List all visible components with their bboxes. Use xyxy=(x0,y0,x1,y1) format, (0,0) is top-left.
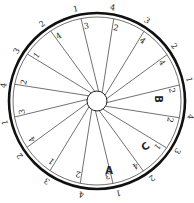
outer-label: 1 xyxy=(184,76,194,83)
inner-label: 4 xyxy=(27,135,37,144)
inner-label: 2 xyxy=(167,87,177,93)
inner-label: 2 xyxy=(112,23,119,33)
outer-label: 3 xyxy=(12,46,22,55)
letter-label-b: B xyxy=(153,95,164,103)
inner-label: 1 xyxy=(47,156,56,166)
inner-label: 3 xyxy=(17,108,27,114)
outer-label: 3 xyxy=(42,176,51,186)
outer-label: 2 xyxy=(147,173,156,183)
outer-label: 2 xyxy=(169,41,179,50)
wheel-diagram: 1432143214321432 3244221432143214 B C A xyxy=(0,0,194,203)
letter-label-c: C xyxy=(139,140,152,153)
outer-label: 3 xyxy=(143,16,152,26)
outer-label: 1 xyxy=(115,188,122,198)
inner-label: 4 xyxy=(131,161,140,171)
inner-label: 2 xyxy=(19,79,29,86)
outer-label: 4 xyxy=(109,3,116,13)
inner-label: 2 xyxy=(75,169,82,179)
inner-label: 2 xyxy=(165,116,175,123)
outer-label: 2 xyxy=(15,151,25,160)
inner-label: 3 xyxy=(83,21,89,31)
hub xyxy=(87,91,107,111)
outer-label: 4 xyxy=(185,113,194,120)
outer-label: 1 xyxy=(72,4,79,14)
outer-label: 3 xyxy=(172,147,182,156)
inner-label: 4 xyxy=(54,31,63,41)
letter-label-a: A xyxy=(105,165,113,176)
outer-label: 4 xyxy=(78,189,85,199)
inner-label: 4 xyxy=(138,36,147,46)
inner-label: 1 xyxy=(32,51,42,60)
inner-label: 1 xyxy=(152,142,162,151)
outer-label: 4 xyxy=(0,82,9,89)
inner-label: 4 xyxy=(157,58,167,67)
outer-label: 1 xyxy=(0,119,10,126)
outer-label: 2 xyxy=(37,19,46,29)
